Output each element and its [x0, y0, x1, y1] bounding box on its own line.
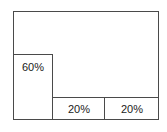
- region-left-label: 60%: [22, 61, 44, 73]
- region-bottom-middle-label: 20%: [68, 103, 90, 115]
- region-bottom-right-label: 20%: [121, 103, 143, 115]
